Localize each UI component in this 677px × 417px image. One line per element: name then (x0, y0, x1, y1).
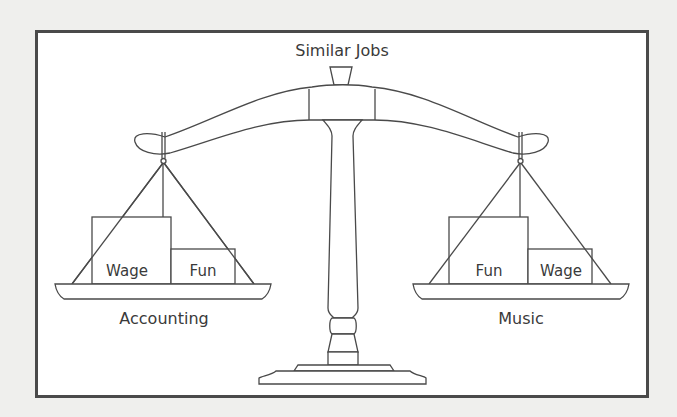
balance-scale: Similar Jobs Wage Fun Accounting (0, 0, 677, 417)
diagram-title: Similar Jobs (295, 41, 389, 60)
right-pan-label: Music (498, 309, 544, 328)
right-weight-large-label: Fun (476, 262, 503, 280)
left-pan (55, 284, 271, 299)
scale-pillar (259, 120, 426, 384)
left-weight-small-label: Fun (190, 262, 217, 280)
right-pan (413, 284, 629, 299)
scale-top-knob (330, 67, 352, 85)
left-weight-large-label: Wage (106, 262, 148, 280)
right-pan-assembly: Fun Wage Music (413, 132, 629, 328)
left-pan-label: Accounting (119, 309, 208, 328)
left-pan-assembly: Wage Fun Accounting (55, 132, 271, 328)
right-weight-small-label: Wage (540, 262, 582, 280)
